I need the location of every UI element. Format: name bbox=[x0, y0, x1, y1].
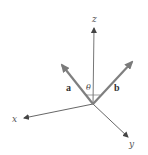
y-axis-label: y bbox=[128, 139, 135, 149]
y-axis: y bbox=[93, 104, 135, 149]
z-axis-label: z bbox=[91, 14, 97, 24]
vector-b-arrow bbox=[93, 62, 132, 104]
vector-b-label: b bbox=[114, 82, 120, 93]
theta-label: θ bbox=[86, 83, 91, 92]
z-axis: z bbox=[91, 14, 97, 104]
vector-a-label: a bbox=[66, 82, 71, 93]
z-axis-line bbox=[93, 28, 94, 104]
x-axis: x bbox=[12, 104, 93, 124]
vector-angle-diagram: z x y a b θ bbox=[0, 0, 148, 155]
x-axis-label: x bbox=[12, 114, 17, 124]
vector-b: b bbox=[93, 62, 132, 104]
y-axis-line bbox=[93, 104, 128, 137]
x-axis-line bbox=[24, 104, 93, 118]
